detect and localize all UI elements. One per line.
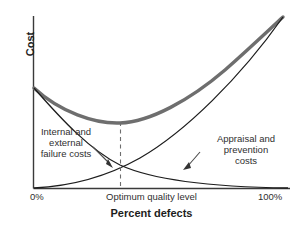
total-cost-curve [34,17,283,123]
annotation-appraisal-line-1: Appraisal and [203,133,289,144]
annotation-appraisal-line-2: prevention [203,144,289,155]
x-axis-label: Percent defects [0,207,303,219]
annotation-internal-external-failure-costs: Internal and external failure costs [25,126,107,159]
annotation-failure-line-2: external [25,137,107,148]
annotation-appraisal-prevention-costs: Appraisal and prevention costs [203,133,289,166]
annotation-failure-line-3: failure costs [25,148,107,159]
annotation-failure-line-1: Internal and [25,126,107,137]
x-axis-tick-100-percent: 100% [258,192,282,203]
y-axis-label: Cost [10,24,50,64]
annotation-appraisal-line-3: costs [203,155,289,166]
cost-of-quality-chart: Cost 0% Optimum quality level 100% Perce… [0,0,303,225]
